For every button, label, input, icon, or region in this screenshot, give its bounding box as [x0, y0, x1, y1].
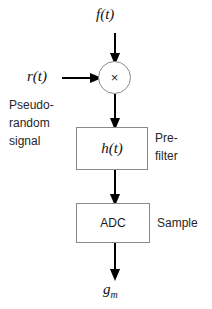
adc-block[interactable]: ADC — [76, 203, 150, 243]
output-signal-subscript: m — [111, 289, 118, 300]
output-signal-base: g — [103, 281, 111, 297]
pseudorandom-note-line-3: signal — [9, 134, 40, 148]
input-signal-label: f(t) — [96, 6, 114, 24]
pseudorandom-note-line-1: Pseudo- — [9, 98, 54, 112]
sample-note: Sample — [157, 216, 198, 230]
prefilter-note-line-2: filter — [155, 149, 178, 163]
adc-block-label: ADC — [100, 216, 125, 230]
reference-signal-label: r(t) — [27, 68, 47, 86]
prefilter-block-label: h(t) — [101, 140, 123, 157]
block-diagram-canvas: f(t) r(t) Pseudo- random signal × h(t) P… — [0, 0, 212, 309]
output-signal-label: gm — [103, 281, 118, 301]
pseudorandom-note-line-2: random — [9, 116, 50, 130]
prefilter-block[interactable]: h(t) — [76, 127, 148, 170]
multiply-icon: × — [111, 70, 119, 85]
multiplier-node[interactable]: × — [98, 61, 131, 94]
prefilter-note-line-1: Pre- — [155, 131, 178, 145]
